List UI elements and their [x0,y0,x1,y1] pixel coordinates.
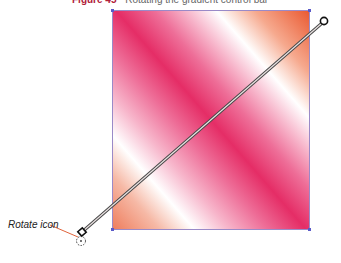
gradient-control-bar[interactable] [82,24,321,232]
gradient-end-icon[interactable] [320,17,327,24]
rotate-icon[interactable] [77,237,86,246]
rotate-icon-callout-label: Rotate icon [8,219,59,230]
